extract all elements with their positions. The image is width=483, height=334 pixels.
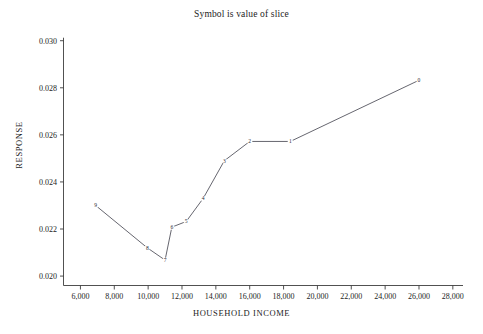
x-tick-label: 6,000 xyxy=(71,292,89,301)
x-tick-label: 16,000 xyxy=(239,292,261,301)
x-tick-label: 20,000 xyxy=(306,292,328,301)
x-tick-label: 26,000 xyxy=(408,292,430,301)
data-point-label: 4 xyxy=(202,195,205,201)
x-axis: 6,0008,00010,00012,00014,00016,00018,000… xyxy=(64,286,464,302)
data-point-label: 0 xyxy=(418,77,421,83)
x-tick-label: 24,000 xyxy=(374,292,396,301)
y-tick-label: 0.030 xyxy=(39,37,57,46)
data-series: 9876543210 xyxy=(93,77,422,263)
y-axis: 0.0200.0220.0240.0260.0280.030 xyxy=(39,37,64,286)
x-tick-label: 28,000 xyxy=(442,292,464,301)
x-tick-label: 8,000 xyxy=(105,292,123,301)
x-axis-title: HOUSEHOLD INCOME xyxy=(0,308,483,318)
plot-area: 0.0200.0220.0240.0260.0280.030 6,0008,00… xyxy=(0,0,483,334)
data-point-label: 6 xyxy=(170,224,173,230)
x-tick-label: 14,000 xyxy=(205,292,227,301)
x-tick-label: 22,000 xyxy=(340,292,362,301)
data-point-label: 3 xyxy=(223,158,226,164)
y-tick-label: 0.022 xyxy=(39,225,57,234)
data-point-label: 8 xyxy=(146,245,149,251)
data-point-label: 1 xyxy=(289,138,292,144)
series-line xyxy=(96,80,419,260)
y-tick-label: 0.020 xyxy=(39,272,57,281)
y-tick-label: 0.028 xyxy=(39,84,57,93)
x-tick-label: 12,000 xyxy=(171,292,193,301)
data-point-label: 9 xyxy=(94,202,97,208)
data-point-label: 5 xyxy=(185,218,188,224)
x-tick-label: 18,000 xyxy=(273,292,295,301)
x-tick-label: 10,000 xyxy=(137,292,159,301)
data-point-label: 7 xyxy=(164,257,167,263)
data-point-label: 2 xyxy=(248,138,251,144)
y-tick-label: 0.026 xyxy=(39,131,57,140)
chart-container: Symbol is value of slice RESPONSE 0.0200… xyxy=(0,0,483,334)
y-tick-label: 0.024 xyxy=(39,178,57,187)
